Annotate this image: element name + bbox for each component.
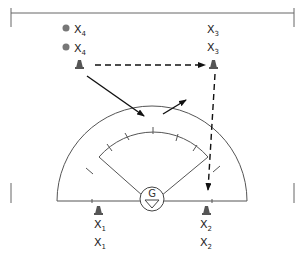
- cone-icon: [94, 206, 103, 215]
- goalie-label: G: [148, 188, 156, 199]
- pass-arrow: [208, 74, 215, 190]
- movement-arrows: [87, 65, 215, 190]
- player-x3-label: X3: [207, 41, 219, 56]
- inner-sector: [86, 127, 220, 196]
- goalie-marker: G: [140, 187, 164, 211]
- field-boundary: [11, 8, 294, 203]
- player-x1-label: X1: [94, 218, 106, 233]
- ball-icon: [63, 25, 70, 32]
- cone-icon: [209, 60, 218, 69]
- player-x2-label: X2: [200, 236, 212, 251]
- ball-icon: [63, 44, 70, 51]
- run-arrow: [87, 76, 144, 116]
- cone-icon: [202, 206, 211, 215]
- player-x1-label: X1: [94, 236, 106, 251]
- player-x2-label: X2: [200, 218, 212, 233]
- cone-icon: [75, 60, 84, 69]
- drill-diagram: G X4 X4 X3 X3 X1 X1 X2 X2: [0, 0, 307, 258]
- player-x4-label: X4: [74, 23, 87, 38]
- player-x3-label: X3: [207, 23, 219, 38]
- player-x4-label: X4: [74, 42, 87, 57]
